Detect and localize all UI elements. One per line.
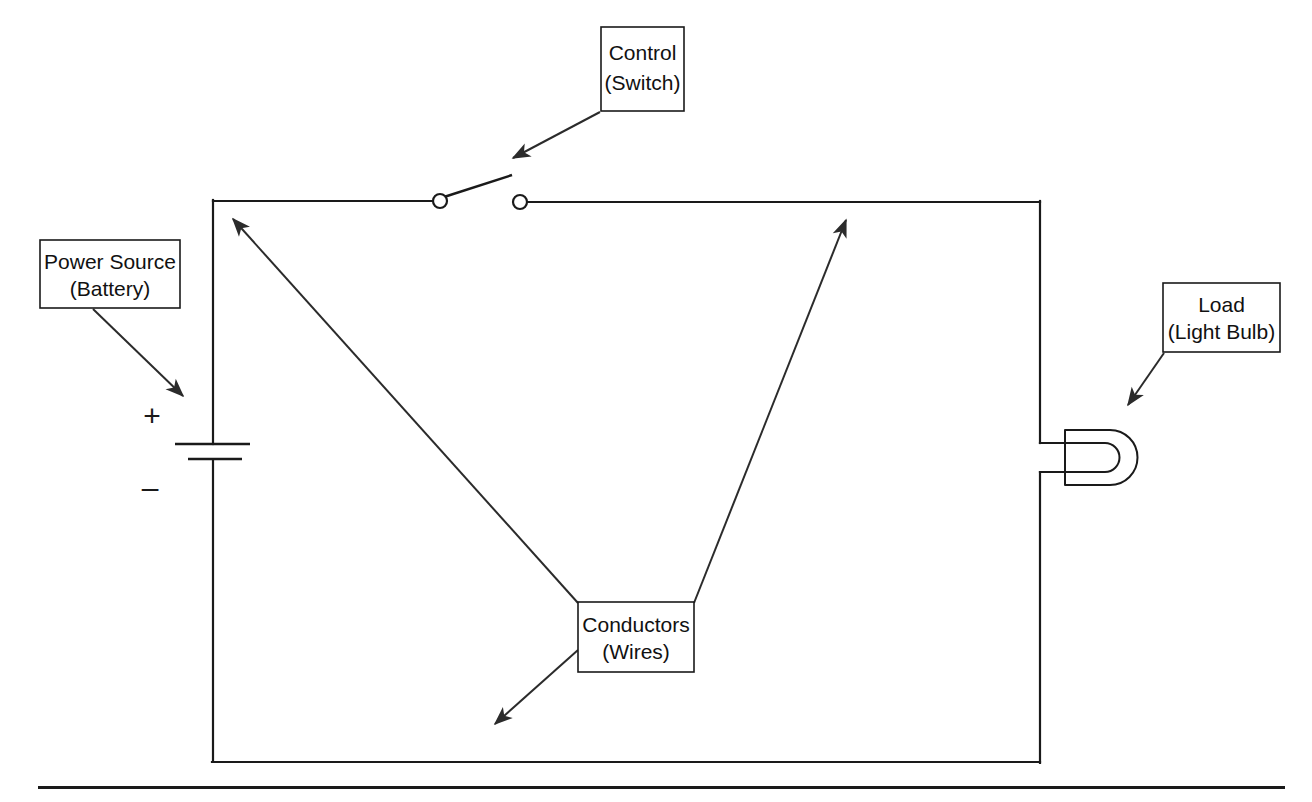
battery-plus-label: + bbox=[143, 399, 161, 432]
callout-conductors: Conductors (Wires) bbox=[578, 602, 694, 672]
callout-power-source: Power Source (Battery) bbox=[40, 240, 180, 308]
callout-conductors-line1: Conductors bbox=[582, 613, 689, 636]
callout-control-line1: Control bbox=[609, 41, 677, 64]
leader-arrow-conductors-upright bbox=[694, 220, 846, 603]
switch-right-terminal bbox=[513, 195, 527, 209]
leader-arrow-conductors-upleft bbox=[233, 219, 578, 603]
light-bulb-symbol bbox=[1065, 430, 1138, 485]
bulb-outer-envelope bbox=[1065, 430, 1138, 485]
callout-load-line2: (Light Bulb) bbox=[1168, 320, 1275, 343]
switch-lever[interactable] bbox=[444, 175, 512, 197]
bulb-filament-loop bbox=[1092, 443, 1120, 472]
leader-arrow-power-source bbox=[93, 309, 183, 396]
callout-load-line1: Load bbox=[1198, 293, 1245, 316]
callout-conductors-line2: (Wires) bbox=[602, 640, 670, 663]
footer-divider-rule bbox=[38, 786, 1285, 789]
circuit-conductor-wires bbox=[212, 200, 1092, 763]
callout-control: Control (Switch) bbox=[601, 27, 684, 111]
callout-load: Load (Light Bulb) bbox=[1163, 283, 1280, 352]
switch-symbol[interactable] bbox=[433, 175, 527, 209]
leader-arrow-control bbox=[513, 112, 600, 158]
leader-arrow-load bbox=[1128, 353, 1164, 405]
callout-power-source-line2: (Battery) bbox=[70, 277, 151, 300]
switch-left-terminal bbox=[433, 194, 447, 208]
callout-power-source-line1: Power Source bbox=[44, 250, 176, 273]
leader-arrow-conductors-downleft bbox=[495, 650, 578, 724]
circuit-diagram: + – Control (Switch) bbox=[0, 0, 1312, 802]
circuit-svg-canvas: + – Control (Switch) bbox=[0, 0, 1312, 802]
callout-control-line2: (Switch) bbox=[605, 71, 681, 94]
battery-minus-label: – bbox=[142, 471, 159, 504]
battery-symbol: + – bbox=[142, 399, 250, 504]
